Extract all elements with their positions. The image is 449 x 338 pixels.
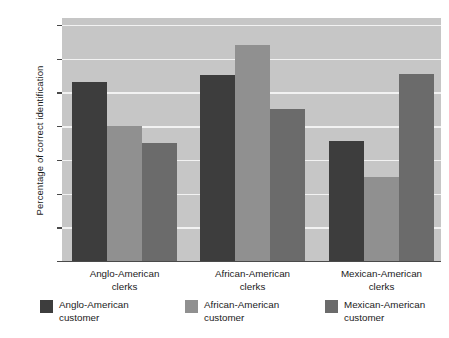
y-tick-mark xyxy=(57,126,62,127)
group-label: Anglo-Americanclerks xyxy=(60,268,190,293)
y-tick-mark xyxy=(57,227,62,228)
group-label-line2: clerks xyxy=(60,281,190,294)
bar xyxy=(200,75,235,261)
legend-entry[interactable]: Mexican-American customer xyxy=(325,299,425,324)
group-label-line1: African-American xyxy=(188,268,318,281)
y-tick-mark xyxy=(57,92,62,93)
bar xyxy=(72,82,107,261)
y-tick-mark xyxy=(57,160,62,161)
gridline xyxy=(62,25,441,27)
bar xyxy=(107,126,142,261)
group-label-line2: clerks xyxy=(188,281,318,294)
y-tick-mark xyxy=(57,194,62,195)
bar xyxy=(329,141,364,261)
bar xyxy=(142,143,177,261)
y-axis-title: Percentage of correct identification xyxy=(34,16,45,266)
legend-swatch xyxy=(40,300,53,313)
legend-swatch xyxy=(185,300,198,313)
legend-label: Anglo-American customer xyxy=(59,299,129,324)
legend-label: African-American customer xyxy=(204,299,279,324)
group-label: Mexican-Americanclerks xyxy=(317,268,447,293)
group-label-line1: Mexican-American xyxy=(317,268,447,281)
bar xyxy=(399,74,434,261)
y-tick-mark xyxy=(57,59,62,60)
legend-label: Mexican-American customer xyxy=(344,299,425,324)
legend-entry[interactable]: African-American customer xyxy=(185,299,279,324)
group-label-line1: Anglo-American xyxy=(60,268,190,281)
legend-swatch xyxy=(325,300,338,313)
group-label: African-Americanclerks xyxy=(188,268,318,293)
bar xyxy=(235,45,270,261)
legend-entry[interactable]: Anglo-American customer xyxy=(40,299,129,324)
group-label-line2: clerks xyxy=(317,281,447,294)
bar-chart-figure: Percentage of correct identification 010… xyxy=(0,0,449,338)
bar xyxy=(270,109,305,261)
y-tick-mark xyxy=(57,25,62,26)
y-tick-mark xyxy=(57,261,62,262)
x-axis-line xyxy=(62,261,441,262)
bar xyxy=(364,177,399,261)
